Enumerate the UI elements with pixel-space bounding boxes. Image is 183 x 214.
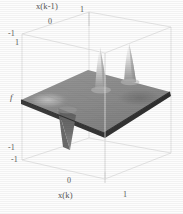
x-axis-tick-zero: 0 xyxy=(67,176,71,185)
y-axis-tick-zero: 0 xyxy=(48,17,52,26)
y-axis-tick-minus-one: -1 xyxy=(8,29,15,38)
surface-plot-figure: x(k-1) x(k) f -1 0 1 1 -1 -1 0 1 xyxy=(0,0,183,214)
dip-right xyxy=(114,88,166,108)
z-axis-tick-minus-one: -1 xyxy=(8,143,15,152)
z-axis-label: f xyxy=(10,92,13,102)
z-axis-tick-one: 1 xyxy=(15,38,19,47)
x-axis-tick-minus-one: -1 xyxy=(11,155,18,164)
x-axis-tick-one: 1 xyxy=(123,190,127,199)
y-axis-tick-one: 1 xyxy=(80,5,84,14)
x-axis-label: x(k) xyxy=(58,190,73,200)
y-axis-label: x(k-1) xyxy=(36,1,58,11)
surface-mesh xyxy=(21,43,171,150)
plot-canvas xyxy=(0,0,183,214)
peak-2 xyxy=(121,43,140,85)
